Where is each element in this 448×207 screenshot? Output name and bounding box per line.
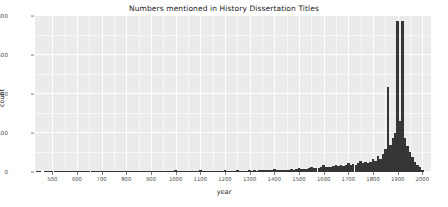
y-tick-mark — [31, 16, 34, 17]
chart-title: Numbers mentioned in History Dissertatio… — [0, 4, 448, 13]
y-tick-label: 2000 — [0, 13, 8, 19]
x-tick-mark — [422, 172, 423, 175]
x-tick-mark — [102, 172, 103, 175]
plot-panel — [35, 16, 431, 172]
x-tick-label: 2000 — [416, 176, 429, 182]
x-tick-label: 800 — [121, 176, 131, 182]
y-tick-mark — [31, 172, 34, 173]
histogram-bars — [35, 16, 431, 172]
x-tick-label: 1500 — [292, 176, 305, 182]
x-tick-label: 1100 — [194, 176, 207, 182]
x-tick-mark — [348, 172, 349, 175]
x-tick-label: 1700 — [342, 176, 355, 182]
x-tick-label: 1300 — [243, 176, 256, 182]
x-tick-mark — [299, 172, 300, 175]
x-tick-mark — [77, 172, 78, 175]
x-tick-label: 1200 — [218, 176, 231, 182]
x-tick-mark — [398, 172, 399, 175]
x-tick-mark — [176, 172, 177, 175]
x-axis-title: year — [0, 188, 448, 196]
x-tick-mark — [250, 172, 251, 175]
y-tick-label: 500 — [0, 130, 8, 136]
x-tick-mark — [200, 172, 201, 175]
y-tick-label: 0 — [0, 169, 8, 175]
x-tick-mark — [373, 172, 374, 175]
y-tick-label: 1500 — [0, 52, 8, 58]
x-tick-label: 1800 — [366, 176, 379, 182]
y-axis-title: count — [0, 89, 6, 107]
x-tick-mark — [274, 172, 275, 175]
y-tick-mark — [31, 133, 34, 134]
y-tick-mark — [31, 55, 34, 56]
histogram-bar — [39, 171, 41, 172]
x-tick-label: 1400 — [268, 176, 281, 182]
histogram-chart: Numbers mentioned in History Dissertatio… — [0, 0, 448, 207]
x-tick-label: 900 — [146, 176, 156, 182]
x-tick-label: 1000 — [169, 176, 182, 182]
x-tick-mark — [126, 172, 127, 175]
x-tick-label: 500 — [47, 176, 57, 182]
x-tick-label: 1900 — [391, 176, 404, 182]
x-tick-mark — [52, 172, 53, 175]
x-tick-mark — [151, 172, 152, 175]
x-tick-mark — [225, 172, 226, 175]
y-tick-mark — [31, 94, 34, 95]
x-tick-label: 700 — [97, 176, 107, 182]
x-tick-label: 600 — [72, 176, 82, 182]
x-tick-mark — [324, 172, 325, 175]
x-tick-label: 1600 — [317, 176, 330, 182]
